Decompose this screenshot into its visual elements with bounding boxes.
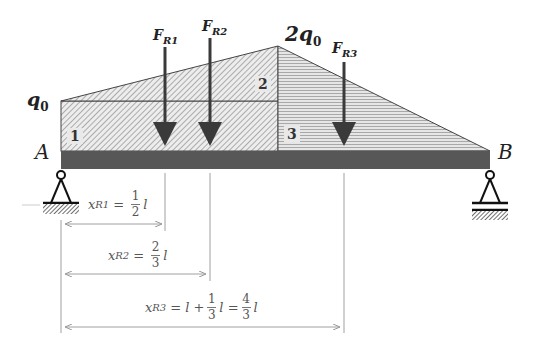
load-region-3 (278, 46, 490, 151)
load-region-2 (61, 46, 278, 101)
label-fr3: FR3 (332, 40, 357, 59)
region-label-2: 2 (255, 76, 271, 92)
beam (61, 151, 490, 169)
region-label-1: 1 (67, 128, 83, 144)
beam-diagram (0, 0, 536, 355)
label-fr2: FR2 (202, 18, 227, 37)
dimension-label-xr2: xR2 = 23 l (108, 241, 167, 270)
support-a-pin-icon (43, 171, 79, 214)
load-region-1 (61, 101, 278, 151)
support-b-roller-icon (472, 171, 508, 220)
label-support-a: A (35, 140, 49, 164)
label-fr1: FR1 (153, 27, 178, 46)
label-2q0: 2q0 (285, 22, 321, 49)
region-label-3: 3 (284, 126, 300, 142)
label-support-b: B (498, 140, 513, 164)
label-q0: q0 (27, 88, 49, 114)
dimension-label-xr1: xR1 = 12 l (88, 190, 147, 219)
dimension-label-xr3: xR3 = l + 13 l = 43 l (145, 293, 258, 322)
